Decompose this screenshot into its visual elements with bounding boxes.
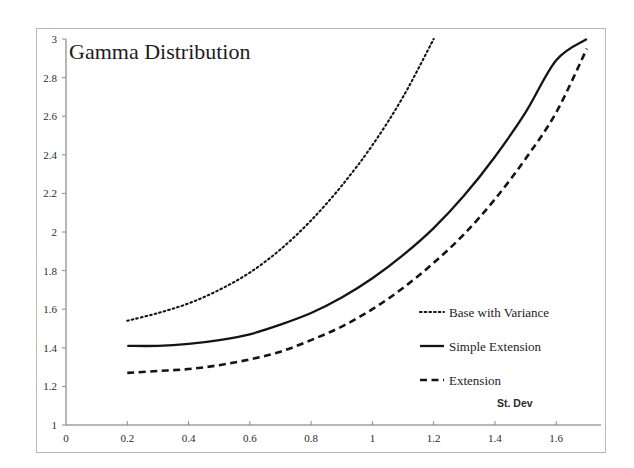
y-axis-ticks [62, 39, 66, 425]
legend-label: Base with Variance [449, 305, 549, 320]
x-tick-label: 1.6 [549, 432, 563, 444]
y-axis-tick-labels: 11.21.41.61.822.22.42.62.83 [43, 33, 57, 431]
x-tick-label: 1 [370, 432, 376, 444]
y-tick-label: 1.6 [43, 303, 57, 315]
legend-label: Simple Extension [449, 339, 542, 354]
x-tick-label: 0.4 [182, 432, 196, 444]
y-tick-label: 1.2 [43, 380, 57, 392]
legend-label: Extension [449, 373, 501, 388]
y-tick-label: 2.8 [43, 72, 57, 84]
y-tick-label: 2 [52, 226, 58, 238]
y-tick-label: 3 [52, 33, 58, 45]
x-axis-tick-labels: 00.20.40.60.811.21.41.6 [63, 432, 563, 444]
series-line-base-with-variance [127, 39, 433, 321]
x-axis-ticks [127, 421, 556, 425]
series-layer [127, 39, 587, 373]
y-tick-label: 1 [52, 419, 58, 431]
x-axis-title: St. Dev [497, 397, 533, 409]
series-line-extension [127, 49, 587, 373]
x-tick-label: 0.2 [120, 432, 134, 444]
y-tick-label: 2.4 [43, 149, 57, 161]
y-tick-label: 2.2 [43, 187, 57, 199]
y-tick-label: 1.4 [43, 342, 57, 354]
x-tick-label: 1.2 [427, 432, 441, 444]
y-tick-label: 1.8 [43, 265, 57, 277]
figure-frame: 11.21.41.61.822.22.42.62.83 00.20.40.60.… [36, 28, 606, 453]
chart-title: Gamma Distribution [69, 39, 250, 64]
gamma-distribution-chart: 11.21.41.61.822.22.42.62.83 00.20.40.60.… [37, 29, 605, 452]
x-tick-label: 0 [63, 432, 69, 444]
x-tick-label: 1.4 [488, 432, 502, 444]
y-tick-label: 2.6 [43, 110, 57, 122]
x-tick-label: 0.6 [243, 432, 257, 444]
chart-page: 11.21.41.61.822.22.42.62.83 00.20.40.60.… [0, 0, 634, 468]
x-tick-label: 0.8 [304, 432, 318, 444]
chart-legend: Base with VarianceSimple ExtensionExtens… [420, 305, 549, 388]
